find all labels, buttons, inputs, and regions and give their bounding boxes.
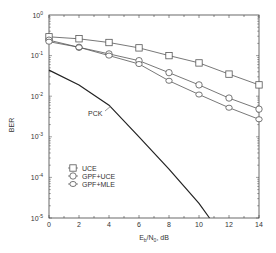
y-tick-label: 10-3 xyxy=(31,131,43,140)
y-tick-label: 100 xyxy=(32,10,43,19)
diamond-marker xyxy=(76,45,82,50)
legend-label: GPF+UCE xyxy=(82,173,116,180)
circle-marker xyxy=(196,82,202,88)
legend-item-gpf-uce: GPF+UCE xyxy=(68,173,116,180)
legend-item-gpf-mle: GPF+MLE xyxy=(68,181,115,188)
legend: UCEGPF+UCEGPF+MLE xyxy=(68,165,116,188)
square-marker xyxy=(106,39,112,45)
x-tick-label: 12 xyxy=(225,221,233,228)
square-marker xyxy=(196,60,202,66)
diamond-marker xyxy=(106,53,112,58)
x-tick-label: 10 xyxy=(195,221,203,228)
x-tick-label: 6 xyxy=(137,221,141,228)
diamond-marker xyxy=(46,39,52,44)
diamond-marker xyxy=(256,117,262,122)
series-uce xyxy=(46,34,262,88)
legend-item-uce: UCE xyxy=(68,165,97,172)
ber-chart: 0246810121410010-110-210-310-410-5 PCK U… xyxy=(0,0,276,253)
x-tick-label: 8 xyxy=(167,221,171,228)
x-tick-label: 14 xyxy=(255,221,263,228)
annotations: PCK xyxy=(88,106,111,117)
y-tick-label: 10-4 xyxy=(31,172,43,181)
series-pck xyxy=(49,70,210,218)
diamond-icon xyxy=(70,181,76,186)
square-icon xyxy=(70,165,76,171)
chart-canvas: 0246810121410010-110-210-310-410-5 PCK U… xyxy=(0,0,276,253)
x-tick-label: 4 xyxy=(107,221,111,228)
axis-ticks: 0246810121410010-110-210-310-410-5 xyxy=(31,10,263,229)
square-marker xyxy=(226,71,232,77)
pck-leader-line xyxy=(105,106,111,111)
x-tick-label: 2 xyxy=(77,221,81,228)
data-series xyxy=(46,34,262,218)
square-marker xyxy=(256,82,262,88)
x-axis-label: Eb/N0, dB xyxy=(139,234,169,243)
square-marker xyxy=(76,36,82,42)
circle-icon xyxy=(70,173,76,179)
legend-label: UCE xyxy=(82,165,97,172)
x-tick-label: 0 xyxy=(47,221,51,228)
diamond-marker xyxy=(226,105,232,110)
diamond-marker xyxy=(196,92,202,97)
y-tick-label: 10-2 xyxy=(31,91,43,100)
circle-marker xyxy=(226,95,232,101)
square-marker xyxy=(136,45,142,51)
legend-label: GPF+MLE xyxy=(82,181,115,188)
diamond-marker xyxy=(136,61,142,66)
series-line xyxy=(49,70,210,218)
y-tick-label: 10-5 xyxy=(31,213,43,222)
pck-annotation: PCK xyxy=(88,110,103,117)
diamond-marker xyxy=(166,78,172,83)
y-tick-label: 10-1 xyxy=(31,50,43,59)
square-marker xyxy=(166,52,172,58)
circle-marker xyxy=(256,106,262,112)
y-axis-label: BER xyxy=(8,118,15,132)
circle-marker xyxy=(166,69,172,75)
